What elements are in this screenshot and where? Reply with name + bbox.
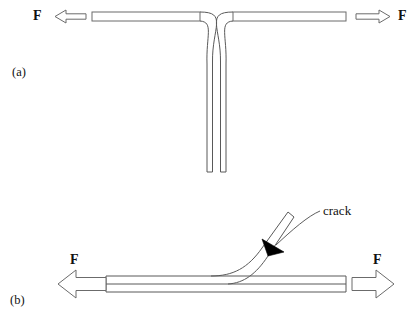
crack-leader-line [276,211,320,245]
panel-b-peeled-arm-end-cap [288,212,294,217]
panel-b-caption: (b) [10,294,25,307]
panel-a-right-arm [233,12,346,21]
panel-b-peeled-arm-inner-edge [228,217,294,284]
crack-annotation-label: crack [323,204,351,217]
figure-canvas [0,0,417,320]
panel-a-caption: (a) [12,66,26,79]
panel-b-force-label-left: F [70,253,79,267]
figure-root: F F (a) F F (b) crack [0,0,417,320]
panel-a-force-arrow-left [55,10,86,23]
panel-a-graphics [55,10,390,172]
panel-a-left-arm [92,12,200,21]
panel-a-right-arm-inner-curve [225,21,233,172]
panel-b-force-arrow-right [352,270,394,298]
panel-b-force-arrow-left [58,270,106,298]
panel-a-force-arrow-right [356,10,390,23]
panel-a-left-arm-inner-curve [200,21,208,172]
panel-a-force-label-right: F [398,9,407,23]
crack-pointer-arrowhead [262,239,284,256]
panel-b-force-label-right: F [373,253,382,267]
panel-a-force-label-left: F [33,9,42,23]
panel-b-graphics [58,211,394,298]
